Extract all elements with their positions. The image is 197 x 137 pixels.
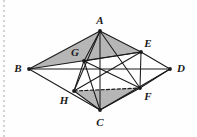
vertex-label-F: F: [144, 91, 151, 102]
vertex-point-D: [168, 67, 172, 71]
vertex-point-G: [82, 59, 86, 63]
edge-AF: [100, 31, 140, 88]
vertex-label-A: A: [96, 15, 103, 26]
vertex-point-E: [139, 50, 143, 54]
vertex-point-H: [72, 89, 76, 93]
vertex-label-D: D: [177, 63, 185, 74]
edge-DF: [140, 69, 170, 88]
geometry-figure: ABCDEFGH: [0, 0, 197, 137]
vertex-point-C: [98, 108, 102, 112]
edge-EF: [140, 52, 141, 88]
vertex-label-E: E: [144, 38, 151, 49]
vertex-point-B: [27, 67, 31, 71]
vertex-point-A: [98, 29, 102, 33]
vertex-label-C: C: [96, 117, 103, 128]
vertex-label-H: H: [60, 95, 69, 106]
vertex-label-G: G: [71, 47, 79, 58]
edge-GF: [84, 61, 140, 88]
vertex-point-F: [138, 86, 142, 90]
edge-DE: [141, 52, 170, 69]
vertex-label-B: B: [14, 63, 21, 74]
